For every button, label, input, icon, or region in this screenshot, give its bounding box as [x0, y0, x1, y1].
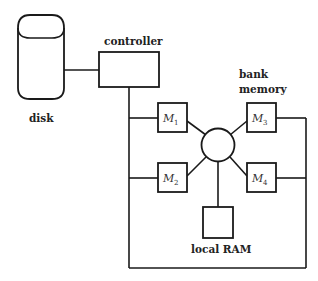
m3-hub-link [230, 121, 247, 135]
controller-label: controller [104, 35, 163, 47]
local-ram-box [203, 207, 233, 238]
local-ram-label: local RAM [191, 243, 252, 255]
m4-hub-link [230, 157, 247, 176]
disk-icon [18, 15, 64, 99]
module-subscript: 2 [174, 179, 178, 187]
module-subscript: 1 [174, 119, 178, 127]
memory-module-m1: M 1 [158, 103, 187, 132]
memory-architecture-diagram: disk controller M 1 M 2 M 3 M 4 bank mem… [0, 0, 318, 281]
m1-hub-link [187, 121, 206, 135]
memory-module-m2: M 2 [158, 163, 187, 192]
m2-hub-link [187, 157, 206, 176]
memory-module-m3: M 3 [247, 103, 276, 132]
memory-label: memory [239, 83, 287, 95]
controller-box [99, 52, 159, 87]
memory-module-m4: M 4 [247, 163, 276, 192]
bank-label: bank [239, 68, 269, 80]
disk-label: disk [29, 112, 54, 124]
module-subscript: 4 [263, 179, 268, 187]
interconnect-hub [202, 129, 235, 162]
module-subscript: 3 [263, 119, 267, 127]
